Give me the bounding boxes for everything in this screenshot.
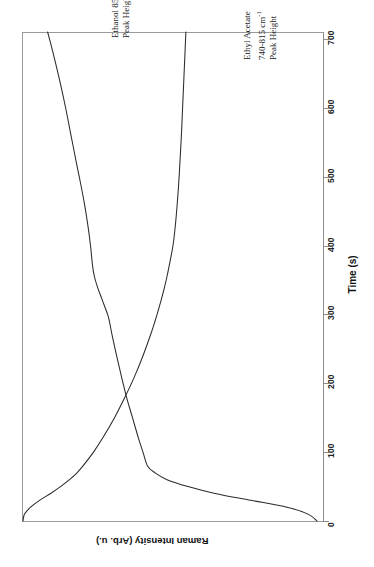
data-curves <box>0 0 374 567</box>
curve-ethyl-acetate <box>23 32 186 521</box>
chart-canvas: 0100200300400500600700 Time (s) Raman In… <box>0 0 374 567</box>
